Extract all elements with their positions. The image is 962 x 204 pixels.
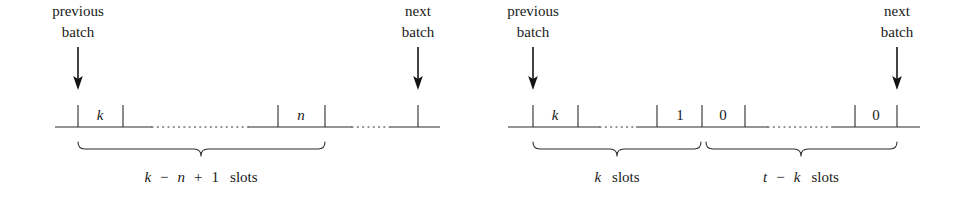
left-previous-batch-line1: previous: [52, 3, 104, 19]
right-brace-tk-slots-word: slots: [811, 169, 839, 185]
right-timeline-ticks: [533, 105, 897, 127]
left-brace-plus: +: [194, 169, 202, 185]
right-brace-t-minus-k-slots-text: t − k slots: [763, 168, 839, 185]
right-brace-label-k-slots: k slots: [594, 168, 639, 185]
left-previous-batch-line2: batch: [62, 24, 95, 40]
left-underbrace: [78, 142, 325, 156]
left-brace-label: k − n + 1 slots: [144, 168, 257, 185]
left-timeline-panel: previous batch next batch: [52, 3, 440, 185]
left-slot-label-n: n: [297, 107, 305, 123]
right-previous-batch-line2: batch: [517, 24, 550, 40]
right-underbrace-t-minus-k-slots: [706, 142, 897, 156]
right-brace-k2: k: [794, 169, 801, 185]
left-timeline-ticks: [78, 105, 418, 127]
right-brace-t: t: [763, 169, 768, 185]
right-underbrace-k-slots: [533, 142, 701, 156]
right-next-batch-annotation: next batch: [881, 3, 914, 90]
left-next-batch-line2: batch: [402, 24, 435, 40]
right-next-batch-arrow-icon: [892, 47, 902, 90]
left-next-batch-line1: next: [405, 3, 432, 19]
right-timeline-panel: previous batch next batch: [507, 3, 920, 185]
left-next-batch-annotation: next batch: [402, 3, 435, 90]
right-brace-k-slots-text: k slots: [594, 168, 639, 185]
left-brace-n: n: [178, 169, 186, 185]
right-brace-minus: −: [776, 169, 784, 185]
right-previous-batch-annotation: previous batch: [507, 3, 559, 90]
figure-root: previous batch next batch: [0, 0, 962, 204]
left-brace-slots: slots: [230, 169, 258, 185]
slot-timeline-diagram: previous batch next batch: [0, 0, 962, 204]
right-slot-label-zero-last: 0: [872, 107, 880, 123]
left-brace-k: k: [144, 169, 151, 185]
left-brace-one: 1: [212, 169, 220, 185]
right-brace-k-slots-word: slots: [612, 169, 640, 185]
right-brace-label-t-minus-k-slots: t − k slots: [763, 168, 839, 185]
left-next-batch-arrow-icon: [413, 47, 423, 90]
right-slot-label-k: k: [552, 107, 559, 123]
left-brace-minus: −: [160, 169, 168, 185]
left-previous-batch-annotation: previous batch: [52, 3, 104, 90]
left-brace-label-text: k − n + 1 slots: [144, 168, 257, 185]
right-slot-label-one: 1: [676, 107, 684, 123]
right-next-batch-line1: next: [884, 3, 911, 19]
right-previous-batch-arrow-icon: [528, 47, 538, 90]
right-previous-batch-line1: previous: [507, 3, 559, 19]
left-previous-batch-arrow-icon: [73, 47, 83, 90]
right-slot-label-zero-first: 0: [719, 107, 727, 123]
right-brace-k: k: [594, 169, 601, 185]
right-next-batch-line2: batch: [881, 24, 914, 40]
left-slot-label-k: k: [97, 107, 104, 123]
